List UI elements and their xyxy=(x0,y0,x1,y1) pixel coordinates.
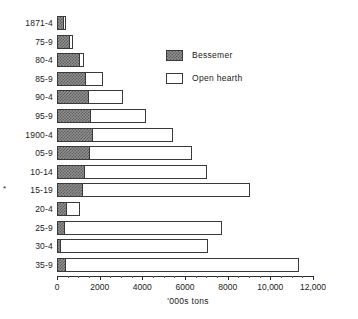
x-axis-minor-tick xyxy=(281,276,282,278)
y-axis-tick-text: 95-9 xyxy=(35,111,53,121)
y-axis-tick-text: 05-9 xyxy=(35,148,53,158)
x-axis-major-tick xyxy=(270,276,271,280)
x-axis-minor-tick xyxy=(89,276,90,278)
y-axis-tick-label: 85-9 xyxy=(1,74,53,84)
bar-bessemer xyxy=(57,202,67,216)
legend-item-bessemer: Bessemer xyxy=(166,48,286,62)
bar-bessemer xyxy=(57,258,66,272)
bar-open-hearth xyxy=(57,183,250,197)
y-axis-tick-label: 35-9 xyxy=(1,260,53,270)
bar-open-hearth xyxy=(57,221,222,235)
x-axis-minor-tick xyxy=(217,276,218,278)
x-axis-minor-tick xyxy=(132,276,133,278)
y-axis-tick-text: 15-19 xyxy=(30,185,53,195)
x-axis-major-tick xyxy=(57,276,58,280)
y-axis-tick-text: 90-4 xyxy=(35,92,53,102)
x-axis-minor-tick xyxy=(238,276,239,278)
legend-swatch-open-hearth-icon xyxy=(166,73,183,84)
x-axis-minor-tick xyxy=(153,276,154,278)
y-axis-tick-text: 20-4 xyxy=(35,204,53,214)
bar-group xyxy=(57,35,313,49)
x-axis-major-tick xyxy=(313,276,314,280)
bar-group xyxy=(57,221,313,235)
x-axis-minor-tick xyxy=(174,276,175,278)
y-axis-tick-text: 1900-4 xyxy=(25,130,53,140)
bar-open-hearth xyxy=(57,258,299,272)
x-axis-title: '000s tons xyxy=(0,296,358,306)
bar-bessemer xyxy=(57,183,83,197)
x-axis-tick-label: 2000 xyxy=(90,282,109,292)
x-axis-minor-tick xyxy=(121,276,122,278)
bar-group xyxy=(57,202,313,216)
x-axis-minor-tick xyxy=(68,276,69,278)
chart-legend: Bessemer Open hearth xyxy=(166,48,286,94)
x-axis-tick-label: 4000 xyxy=(133,282,152,292)
y-axis-tick-label: 80-4 xyxy=(1,55,53,65)
x-axis-tick-label: 6000 xyxy=(176,282,195,292)
x-axis-title-text: '000s tons xyxy=(167,296,208,306)
y-axis-tick-label: 30-4 xyxy=(1,241,53,251)
bar-bessemer xyxy=(57,72,86,86)
bar-bessemer xyxy=(57,146,90,160)
y-axis-labels: 1871-475-980-485-990-495-91900-405-910-1… xyxy=(0,16,53,276)
y-axis-tick-label: 25-9 xyxy=(1,223,53,233)
y-axis-tick-text: 25-9 xyxy=(35,223,53,233)
y-axis-tick-label: 1900-4 xyxy=(1,130,53,140)
y-axis-tick-label: 1871-4 xyxy=(1,18,53,28)
y-axis-tick-text: 35-9 xyxy=(35,260,53,270)
x-axis-minor-tick xyxy=(302,276,303,278)
y-axis-tick-label: 10-14 xyxy=(1,167,53,177)
x-axis-major-tick xyxy=(142,276,143,280)
x-axis-minor-tick xyxy=(292,276,293,278)
legend-item-open-hearth: Open hearth xyxy=(166,71,286,85)
bar-group xyxy=(57,128,313,142)
x-axis-minor-tick xyxy=(110,276,111,278)
x-axis-minor-tick xyxy=(206,276,207,278)
y-axis-tick-label: 90-4 xyxy=(1,92,53,102)
x-axis-major-tick xyxy=(100,276,101,280)
bar-chart: 1871-475-980-485-990-495-91900-405-910-1… xyxy=(0,0,358,319)
x-axis-minor-tick xyxy=(78,276,79,278)
x-axis-tick-label: 10,000 xyxy=(257,282,283,292)
x-axis-major-tick xyxy=(185,276,186,280)
x-axis-minor-tick xyxy=(196,276,197,278)
bar-bessemer xyxy=(57,53,80,67)
bar-bessemer xyxy=(57,128,93,142)
bar-bessemer xyxy=(57,239,61,253)
y-axis-tick-text: 30-4 xyxy=(35,241,53,251)
bar-group xyxy=(57,146,313,160)
y-axis-tick-label: 05-9 xyxy=(1,148,53,158)
bar-bessemer xyxy=(57,16,64,30)
bar-open-hearth xyxy=(57,239,208,253)
y-axis-tick-text: 75-9 xyxy=(35,37,53,47)
y-axis-tick-label: 95-9 xyxy=(1,111,53,121)
bar-bessemer xyxy=(57,109,91,123)
y-axis-tick-label: *15-19 xyxy=(1,185,53,195)
bar-group xyxy=(57,258,313,272)
bar-bessemer xyxy=(57,165,85,179)
x-axis-major-tick xyxy=(228,276,229,280)
legend-label-bessemer: Bessemer xyxy=(192,50,233,60)
bar-group xyxy=(57,165,313,179)
bar-bessemer xyxy=(57,90,89,104)
y-axis-tick-label: 20-4 xyxy=(1,204,53,214)
legend-swatch-bessemer-icon xyxy=(166,50,183,61)
x-axis-tick-label: 8000 xyxy=(218,282,237,292)
bar-group xyxy=(57,183,313,197)
x-axis-tick-label: 12,000 xyxy=(300,282,326,292)
bar-group xyxy=(57,16,313,30)
bar-bessemer xyxy=(57,221,65,235)
bar-group xyxy=(57,239,313,253)
y-axis-tick-label: 75-9 xyxy=(1,37,53,47)
x-axis-minor-tick xyxy=(260,276,261,278)
bar-bessemer xyxy=(57,35,70,49)
y-axis-tick-text: 85-9 xyxy=(35,74,53,84)
legend-label-open-hearth: Open hearth xyxy=(192,73,243,83)
y-axis-tick-text: 10-14 xyxy=(30,167,53,177)
x-axis-minor-tick xyxy=(249,276,250,278)
footnote-asterisk: * xyxy=(3,184,6,193)
x-axis-tick-label: 0 xyxy=(55,282,60,292)
y-axis-tick-text: 1871-4 xyxy=(25,18,53,28)
y-axis-tick-text: 80-4 xyxy=(35,55,53,65)
x-axis-minor-tick xyxy=(164,276,165,278)
